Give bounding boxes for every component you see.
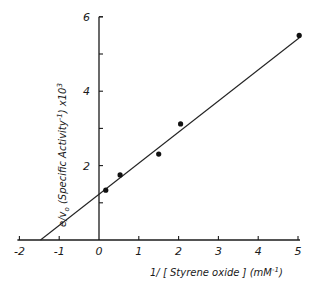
fit-line (40, 37, 299, 240)
x-tick-label: -2 (14, 245, 25, 258)
data-point (117, 172, 122, 177)
x-tick-label: 3 (215, 245, 222, 258)
y-axis-label: e/vo (Specific Activity-1) x103 (56, 83, 71, 227)
data-point (178, 121, 183, 126)
y-tick-label: 2 (83, 160, 90, 173)
x-tick-label: 4 (255, 245, 262, 258)
data-point (156, 151, 161, 156)
regression-line (40, 37, 299, 240)
lineweaver-burk-plot: -2-1012345246 1/ [ Styrene oxide ] (mM-1… (0, 0, 317, 284)
y-tick-label: 4 (83, 85, 90, 98)
x-tick-label: 2 (175, 245, 182, 258)
x-tick-label: 0 (96, 245, 103, 258)
data-point (103, 188, 108, 193)
x-tick-label: -1 (54, 245, 65, 258)
x-tick-label: 1 (135, 245, 142, 258)
data-point (297, 33, 302, 38)
x-axis-label: 1/ [ Styrene oxide ] (mM-1) (150, 266, 283, 278)
x-tick-label: 5 (295, 245, 302, 258)
y-tick-label: 6 (83, 11, 90, 24)
